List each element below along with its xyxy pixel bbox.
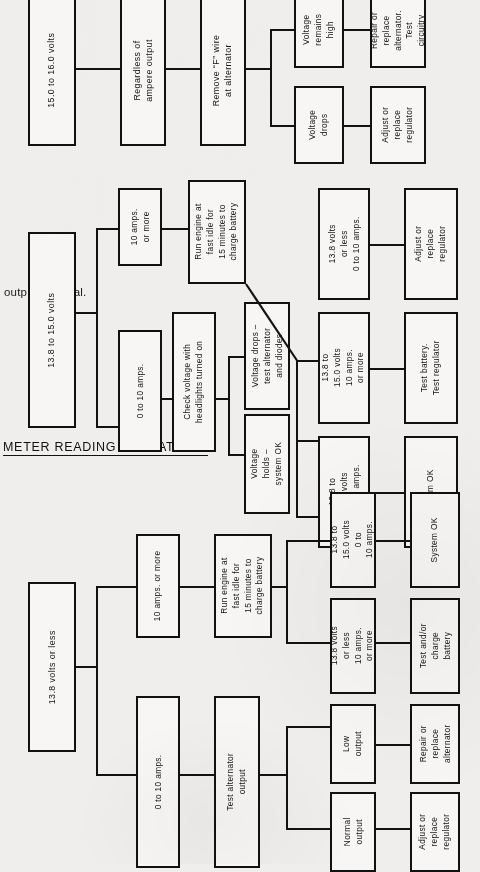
node-repair-replace-alternator-test-circuitry: Repair or replace alternator. Test circu… [370,0,426,68]
node-root-138-or-less: 13.8 volts or less [28,582,76,752]
connector [270,29,272,127]
node-voltage-remains-high: Voltage remains high [294,0,344,68]
node-138-less-10-amps-or-more-bottom: 13.8 volts or less 10 amps. or more [330,598,376,694]
connector [180,586,216,588]
connector [270,29,294,31]
connector [286,540,288,644]
node-label: Run engine at fast idle for 15 minutes t… [193,203,240,261]
connector [260,774,288,776]
node-label: 13.8 volts or less 10 amps. or more [330,626,376,665]
connector [228,454,244,456]
node-system-ok-bottom: System OK [410,492,460,588]
node-label: Voltage holds – system OK [249,442,284,486]
node-138-less-0-10-amps: 13.8 volts or less 0 to 10 amps. [318,188,370,300]
node-label: Test alternator output [225,753,249,811]
node-label: 13.8 volts or less [46,630,58,704]
node-adjust-replace-regulator-top: Adjust or replace regulator [370,86,426,164]
connector [344,29,370,31]
node-label: Adjust or replace regulator [417,814,452,850]
node-label: 10 amps. or more [152,551,164,622]
node-0-to-10-amps-mid: 0 to 10 amps. [118,330,162,452]
node-label: 13.8 volts or less 0 to 10 amps. [326,217,361,272]
node-label: Adjust or replace regulator [413,226,448,262]
connector [162,228,188,230]
connector [228,356,230,456]
node-10-amps-or-more-bottom: 10 amps. or more [136,534,180,638]
node-label: Regardless of ampere output [131,39,156,102]
connector [246,68,272,70]
connector [376,540,410,542]
connector [96,774,136,776]
connector [96,586,98,776]
node-adjust-replace-regulator-bottom: Adjust or replace regulator [410,792,460,872]
node-138-150-0-to-10-amps-bottom: 13.8 to 15.0 volts 0 to 10 amps. [330,492,376,588]
connector [296,360,298,518]
node-test-and-or-charge-battery: Test and/or charge battery [410,598,460,694]
connector [76,68,120,70]
node-run-engine-bottom: Run engine at fast idle for 15 minutes t… [214,534,272,638]
connector [166,68,200,70]
node-label: Check voltage with headlights turned on [182,341,206,423]
node-label: Voltage remains high [301,14,336,46]
connector [296,516,318,518]
node-voltage-drops: Voltage drops [294,86,344,164]
node-regardless-of-output: Regardless of ampere output [120,0,166,146]
node-label: 13.8 to 15.0 volts [46,292,58,367]
node-voltage-drops-test-alternator-diodes: Voltage drops – test alternator and diod… [244,302,290,410]
node-label: Low output [341,731,365,756]
connector [286,726,288,830]
connector [76,666,98,668]
connector [370,244,404,246]
connector [96,228,120,230]
connector [376,828,410,830]
node-0-to-10-amps-bottom: 0 to 10 amps. [136,696,180,868]
connector [228,356,244,358]
connector [370,368,404,370]
connector [286,726,330,728]
node-10-amps-or-more-mid: 10 amps. or more [118,188,162,266]
connector [286,642,330,644]
node-test-battery-test-regulator: Test battery. Test regulator [404,312,458,424]
connector [296,440,318,442]
connector [96,426,120,428]
node-label: System OK [429,517,441,562]
node-label: Voltage drops – test alternator and diod… [249,325,284,388]
connector [376,642,410,644]
node-remove-f-wire: Remove “F” wire at alternator [200,0,246,146]
node-label: Adjust or replace regulator [380,107,415,143]
node-label: 13.8 to 15.0 volts 10 amps. or more [320,348,367,387]
node-label: Repair or replace alternator [417,725,452,764]
node-label: Voltage drops [307,110,331,140]
node-label: 0 to 10 amps. [152,755,164,810]
node-test-alternator-output: Test alternator output [214,696,260,868]
connector [76,312,98,314]
node-voltage-holds-system-ok: Voltage holds – system OK [244,414,290,514]
connector [96,586,136,588]
node-adjust-replace-regulator-mid: Adjust or replace regulator [404,188,458,300]
node-label: 10 amps. or more [128,209,152,246]
connector [344,125,370,127]
node-label: Normal output [341,818,365,847]
node-label: Test and/or charge battery [417,624,452,669]
node-label: 15.0 to 16.0 volts [46,32,58,107]
connector [270,125,294,127]
connector [162,398,172,400]
node-label: Run engine at fast idle for 15 minutes t… [219,557,266,615]
node-label: 13.8 to 15.0 volts 0 to 10 amps. [330,520,376,559]
node-normal-output: Normal output [330,792,376,872]
node-check-voltage-headlights: Check voltage with headlights turned on [172,312,216,452]
connector [296,360,318,362]
node-repair-replace-alternator-bottom: Repair or replace alternator [410,704,460,784]
node-run-engine-mid: Run engine at fast idle for 15 minutes t… [188,180,246,284]
node-label: Repair or replace alternator. Test circu… [370,10,426,51]
node-label: Remove “F” wire at alternator [211,34,236,106]
connector [286,540,330,542]
node-label: 0 to 10 amps. [134,364,146,419]
connector [376,744,410,746]
node-138-150-10-amps-or-more: 13.8 to 15.0 volts 10 amps. or more [318,312,370,424]
connector [286,828,330,830]
connector [180,774,216,776]
node-low-output: Low output [330,704,376,784]
node-root-150-160: 15.0 to 16.0 volts [28,0,76,146]
